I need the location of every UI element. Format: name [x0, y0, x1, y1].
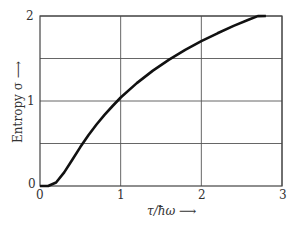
- x-tick-1: 1: [117, 189, 125, 201]
- x-tick-0: 0: [36, 189, 44, 201]
- x-tick-3: 3: [279, 189, 287, 201]
- y-tick-1: 1: [27, 95, 35, 107]
- y-tick-0: 0: [28, 178, 36, 190]
- x-axis-label: τ/ħω ⟶: [147, 204, 196, 218]
- y-axis-label: Entropy σ ⟶: [11, 52, 25, 152]
- grid-lines: [40, 16, 282, 186]
- entropy-chart: [0, 0, 300, 227]
- y-tick-2: 2: [26, 10, 34, 22]
- x-tick-2: 2: [198, 189, 206, 201]
